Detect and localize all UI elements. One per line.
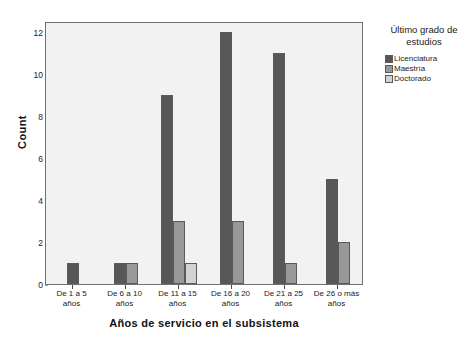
legend-title: Último grado de estudios — [372, 24, 476, 47]
x-tick-label-line1: De 26 o más — [305, 289, 369, 299]
bar[interactable] — [232, 221, 244, 284]
y-tick-label: 0 — [0, 280, 43, 290]
bar-group — [258, 23, 311, 284]
legend-swatch-icon — [385, 65, 393, 73]
y-tick-label: 2 — [0, 238, 43, 248]
bars-layer — [46, 23, 362, 284]
bar-group — [205, 23, 258, 284]
bar[interactable] — [126, 263, 138, 284]
legend-title-line2: estudios — [374, 36, 474, 48]
y-tick-label: 8 — [0, 112, 43, 122]
y-tick-label: 12 — [0, 28, 43, 38]
y-tick-label: 4 — [0, 196, 43, 206]
legend-item[interactable]: Maestría — [385, 64, 476, 73]
x-axis-title: Años de servicio en el subsistema — [45, 317, 363, 329]
x-tick-label-line2: años — [305, 299, 369, 309]
bar[interactable] — [114, 263, 126, 284]
bar[interactable] — [285, 263, 297, 284]
x-tick-label: De 26 o másaños — [305, 289, 369, 308]
legend-item-label: Doctorado — [394, 74, 431, 83]
y-tick-label: 6 — [0, 154, 43, 164]
bar[interactable] — [273, 53, 285, 284]
legend: Último grado de estudios LicenciaturaMae… — [372, 24, 476, 84]
legend-item-label: Licenciatura — [394, 54, 437, 63]
bar-group — [152, 23, 205, 284]
legend-items: LicenciaturaMaestríaDoctorado — [372, 54, 476, 83]
bar[interactable] — [161, 95, 173, 284]
bar-group — [46, 23, 99, 284]
legend-item[interactable]: Licenciatura — [385, 54, 476, 63]
legend-swatch-icon — [385, 55, 393, 63]
legend-item-label: Maestría — [394, 64, 425, 73]
legend-title-line1: Último grado de — [374, 24, 474, 36]
bar[interactable] — [338, 242, 350, 284]
bar[interactable] — [173, 221, 185, 284]
bar[interactable] — [220, 32, 232, 284]
y-tick-label: 10 — [0, 70, 43, 80]
legend-swatch-icon — [385, 75, 393, 83]
bar[interactable] — [185, 263, 197, 284]
bar-group — [99, 23, 152, 284]
bar-group — [311, 23, 364, 284]
plot-area — [45, 22, 363, 285]
bar[interactable] — [67, 263, 79, 284]
legend-item[interactable]: Doctorado — [385, 74, 476, 83]
bar[interactable] — [326, 179, 338, 284]
